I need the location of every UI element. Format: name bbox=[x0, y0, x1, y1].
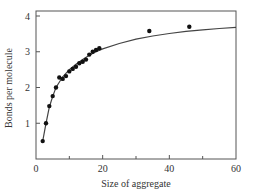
data-point bbox=[147, 29, 151, 33]
data-point bbox=[51, 94, 55, 98]
data-point bbox=[97, 46, 101, 50]
x-tick-label: 40 bbox=[164, 163, 174, 174]
y-tick-label: 2 bbox=[25, 82, 30, 93]
plot-frame bbox=[36, 11, 236, 159]
axis-ticks: 02040601234 bbox=[25, 11, 241, 175]
x-tick-label: 20 bbox=[98, 163, 108, 174]
fit-curve bbox=[43, 27, 236, 141]
data-point bbox=[84, 57, 88, 61]
x-tick-label: 0 bbox=[34, 163, 39, 174]
y-tick-label: 4 bbox=[25, 11, 30, 22]
data-point bbox=[74, 65, 78, 69]
x-axis-label: Size of aggregate bbox=[101, 178, 171, 189]
data-point bbox=[187, 25, 191, 29]
data-point bbox=[41, 139, 45, 143]
chart: 02040601234 Size of aggregate Bonds per … bbox=[0, 0, 257, 194]
data-point bbox=[47, 104, 51, 108]
data-points bbox=[41, 25, 192, 144]
y-tick-label: 1 bbox=[25, 118, 30, 129]
y-axis-label: Bonds per molecule bbox=[3, 47, 14, 128]
x-tick-label: 60 bbox=[231, 163, 241, 174]
data-point bbox=[44, 121, 48, 125]
data-point bbox=[54, 85, 58, 89]
data-point bbox=[87, 52, 91, 56]
y-tick-label: 3 bbox=[25, 46, 30, 57]
data-point bbox=[64, 74, 68, 78]
